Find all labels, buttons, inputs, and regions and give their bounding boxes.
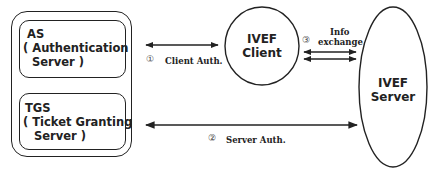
edge-2-label: Server Auth. [226,135,286,145]
ivef-client-line2: Client [232,46,292,60]
edge-2-marker: ② [208,133,216,143]
edge-3-label-line2: exchange [318,37,363,47]
edge-1-marker: ① [146,54,154,64]
ivef-server-line1: IVEF [363,76,423,90]
ivef-client-label: IVEF Client [232,32,292,60]
edge-1-label: Client Auth. [165,56,223,66]
edge-3-marker: ③ [302,35,310,45]
ivef-server-label: IVEF Server [363,76,423,104]
ivef-server-line2: Server [363,90,423,104]
edge-3-label-line1: Info [330,27,349,37]
ivef-client-line1: IVEF [232,32,292,46]
